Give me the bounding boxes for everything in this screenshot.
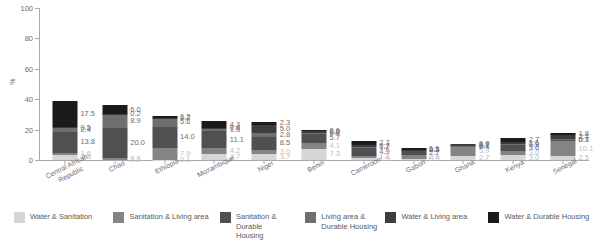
bar-segment[interactable]: 1.1: [401, 148, 426, 150]
bar-segment[interactable]: 0.4: [451, 146, 476, 147]
bar-slot[interactable]: 1.51.34.91.20.72.7: [339, 8, 389, 160]
legend-swatch: [305, 212, 316, 223]
y-tick-label: 0: [29, 157, 33, 164]
bar-slot[interactable]: 0.92.52.70.50.21.1: [389, 8, 439, 160]
bar-segment[interactable]: 2.8: [252, 133, 277, 137]
bar-segment[interactable]: 0.5: [52, 127, 77, 128]
x-label-slot: Chad: [90, 161, 140, 203]
bar-segment[interactable]: 4.2: [202, 148, 227, 154]
stacked-bar[interactable]: 3.31.613.82.40.517.5: [52, 101, 77, 160]
bar-segment[interactable]: 5.7: [301, 134, 326, 143]
bar-segment[interactable]: 2.7: [351, 141, 376, 145]
bar-segment[interactable]: 1.6: [501, 142, 526, 144]
x-label-slot: Senegal: [538, 161, 588, 203]
bar-slot[interactable]: 0.01.120.08.90.26.0: [90, 8, 140, 160]
bar-slot[interactable]: 2.75.90.40.11.70.0: [439, 8, 489, 160]
legend-label: Living area & Durable Housing: [321, 212, 377, 231]
legend-item[interactable]: Water & Sanitation: [14, 212, 105, 223]
legend-swatch: [385, 212, 396, 223]
x-axis-labels: Central African RepublicChadEthiopiaMoza…: [40, 161, 588, 203]
bar-slot[interactable]: 7.34.15.70.81.00.6: [289, 8, 339, 160]
bar-group: 3.31.613.82.40.517.50.01.120.08.90.26.00…: [40, 8, 588, 160]
y-tick-label: 40: [25, 96, 33, 103]
bar-segment[interactable]: 17.5: [52, 101, 77, 128]
bar-segment[interactable]: 1.6: [52, 153, 77, 155]
bar-segment[interactable]: 13.8: [52, 132, 77, 153]
x-label-slot: Mozambique: [189, 161, 239, 203]
legend-swatch: [488, 212, 499, 223]
legend-item[interactable]: Water & Durable Housing: [488, 212, 594, 223]
plot-area: 3.31.613.82.40.517.50.01.120.08.90.26.00…: [40, 8, 588, 160]
legend-item[interactable]: Water & Living area: [385, 212, 480, 223]
bar-segment[interactable]: 4.9: [351, 148, 376, 155]
x-label-slot: Benin: [289, 161, 339, 203]
legend-swatch: [113, 212, 124, 223]
bar-segment[interactable]: 2.4: [52, 128, 77, 132]
legend-label: Sanitation & Durable Housing: [236, 212, 297, 241]
x-label-slot: Niger: [239, 161, 289, 203]
bar-slot[interactable]: 3.03.03.60.91.62.7: [488, 8, 538, 160]
bar-value-label: 1.8: [579, 130, 589, 138]
bar-segment[interactable]: 0.6: [202, 128, 227, 129]
legend-item[interactable]: Sanitation & Living area: [113, 212, 212, 223]
legend-item[interactable]: Sanitation & Durable Housing: [220, 212, 297, 241]
legend-item[interactable]: Living area & Durable Housing: [305, 212, 377, 231]
bar-segment[interactable]: 1.2: [152, 116, 177, 118]
bar-slot[interactable]: 3.73.08.52.85.02.3: [239, 8, 289, 160]
bar-slot[interactable]: 2.510.10.70.32.71.8: [538, 8, 588, 160]
x-label-slot: Kenya: [488, 161, 538, 203]
bar-segment[interactable]: 8.9: [102, 114, 127, 128]
bar-segment[interactable]: 0.5: [401, 150, 426, 151]
x-label-slot: Cameroon: [339, 161, 389, 203]
y-tick-label: 20: [25, 126, 33, 133]
stacked-bar[interactable]: 7.34.15.70.81.00.6: [301, 130, 326, 160]
y-axis-ticks: 020406080100: [0, 8, 40, 160]
bar-segment[interactable]: 8.5: [252, 137, 277, 150]
bar-segment[interactable]: 2.7: [401, 151, 426, 155]
bar-segment[interactable]: 0.8: [301, 133, 326, 134]
stacked-bar[interactable]: 3.73.08.52.85.02.3: [252, 122, 277, 160]
bar-segment[interactable]: 2.7: [551, 135, 576, 139]
legend-label: Water & Living area: [401, 212, 467, 222]
bar-segment[interactable]: 11.1: [202, 131, 227, 148]
bar-segment[interactable]: 2.3: [252, 122, 277, 125]
bar-segment[interactable]: 5.0: [252, 125, 277, 133]
bar-segment[interactable]: 5.9: [451, 147, 476, 156]
bar-segment[interactable]: 4.3: [202, 121, 227, 128]
bar-segment[interactable]: 0.6: [301, 130, 326, 131]
bar-segment[interactable]: 0.7: [551, 140, 576, 141]
bar-segment[interactable]: 2.7: [501, 138, 526, 142]
stacked-bar[interactable]: 0.01.120.08.90.26.0: [102, 105, 127, 160]
bar-segment[interactable]: 3.6: [501, 145, 526, 150]
bar-segment[interactable]: 4.1: [301, 143, 326, 149]
y-tick-label: 80: [25, 35, 33, 42]
stacked-bar[interactable]: 3.03.03.60.91.62.7: [501, 138, 526, 160]
stacked-bar[interactable]: 3.74.211.11.50.64.3: [202, 121, 227, 160]
bar-segment[interactable]: 1.5: [202, 129, 227, 131]
stacked-bar-chart: % 020406080100 3.31.613.82.40.517.50.01.…: [0, 0, 601, 243]
y-tick-label: 60: [25, 65, 33, 72]
bar-segment[interactable]: 1.2: [351, 147, 376, 149]
bar-segment[interactable]: 0.7: [351, 145, 376, 146]
bar-segment[interactable]: 14.0: [152, 127, 177, 148]
bar-slot[interactable]: 3.31.613.82.40.517.5: [40, 8, 90, 160]
x-label-slot: Ethiopia: [140, 161, 190, 203]
legend-swatch: [220, 212, 231, 223]
bar-segment[interactable]: 10.1: [551, 141, 576, 156]
bar-segment[interactable]: 1.8: [551, 133, 576, 136]
bar-slot[interactable]: 3.74.211.11.50.64.3: [189, 8, 239, 160]
bar-segment[interactable]: 0.9: [501, 144, 526, 145]
bar-segment[interactable]: 6.0: [102, 105, 127, 114]
bar-segment[interactable]: 1.7: [451, 144, 476, 147]
stacked-bar[interactable]: 0.17.914.05.60.21.2: [152, 116, 177, 160]
chart-legend: Water & SanitationSanitation & Living ar…: [14, 212, 594, 240]
bar-segment[interactable]: 1.0: [301, 131, 326, 133]
bar-segment[interactable]: 3.0: [252, 150, 277, 155]
bar-segment[interactable]: 3.0: [501, 151, 526, 156]
stacked-bar[interactable]: 2.510.10.70.32.71.8: [551, 133, 576, 160]
bar-segment[interactable]: 20.0: [102, 128, 127, 158]
bar-segment[interactable]: 5.6: [152, 118, 177, 127]
y-tick-label: 100: [20, 5, 33, 12]
legend-swatch: [14, 212, 25, 223]
bar-slot[interactable]: 0.17.914.05.60.21.2: [140, 8, 190, 160]
